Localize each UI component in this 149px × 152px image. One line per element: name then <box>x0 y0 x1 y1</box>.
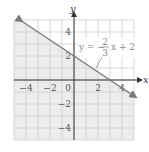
fraction-numerator: 2 <box>102 37 108 47</box>
x-axis-label: x <box>143 74 149 85</box>
x-tick-label: −2 <box>43 83 56 93</box>
y-tick-label: −4 <box>58 123 72 133</box>
equation-prefix: y = − <box>78 42 105 52</box>
x-tick-label: 0 <box>65 83 71 93</box>
equation-suffix: x + 2 <box>111 42 135 52</box>
y-axis-label: y <box>69 3 76 14</box>
x-tick-label: −4 <box>19 83 33 93</box>
fraction-denominator: 3 <box>102 48 108 58</box>
y-tick-label: −2 <box>58 99 71 109</box>
y-tick-label: 4 <box>65 27 71 37</box>
graph-canvas: x y −4−2024 42−2−4 y = − 2 3 x + 2 <box>0 0 149 152</box>
x-tick-label: 2 <box>95 83 101 93</box>
